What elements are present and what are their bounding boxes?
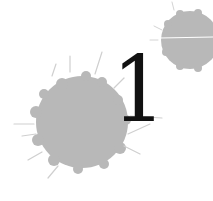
chapter-number: 1 xyxy=(112,44,166,136)
chapter-opener-graphic: 1 xyxy=(0,0,213,201)
ink-splatter-graphic xyxy=(0,0,213,201)
